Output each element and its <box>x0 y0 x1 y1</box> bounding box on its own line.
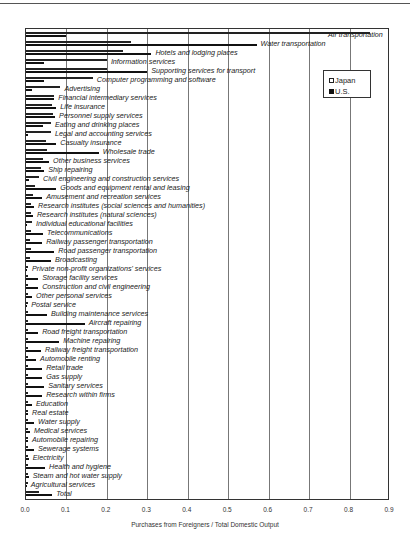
bar-row: Sanitary services <box>26 382 390 390</box>
category-label: Personnel supply services <box>59 112 143 120</box>
us-bar <box>26 215 33 218</box>
category-label: Education <box>36 400 68 408</box>
us-bar <box>26 350 41 353</box>
category-label: Research institutes (social sciences and… <box>38 202 205 210</box>
bar-row: Casualty insurance <box>26 139 390 147</box>
category-label: Medical services <box>34 427 87 435</box>
bar-row: Goods and equipment rental and leasing <box>26 184 390 192</box>
legend-item-us: U.S. <box>329 87 350 96</box>
us-bar <box>26 197 42 200</box>
bar-row: Building maintenance services <box>26 310 390 318</box>
us-bar <box>26 260 51 263</box>
category-label: Advertising <box>64 85 100 93</box>
category-label: Sewerage systems <box>38 445 99 453</box>
bar-row: Legal and accounting services <box>26 130 390 138</box>
us-bar <box>26 413 28 416</box>
us-bar <box>26 251 54 254</box>
bar-row: Information services <box>26 58 390 66</box>
category-label: Individual educational facilities <box>36 220 133 228</box>
us-bar <box>26 278 38 281</box>
category-label: Amusement and recreation services <box>46 193 161 201</box>
us-bar <box>26 359 36 362</box>
category-label: Research institutes (natural sciences) <box>37 211 157 219</box>
category-label: Goods and equipment rental and leasing <box>60 184 189 192</box>
category-label: Telecommunications <box>47 229 112 237</box>
x-axis-label: Purchases from Foreigners / Total Domest… <box>0 521 410 528</box>
category-label: Sanitary services <box>48 382 103 390</box>
bar-row: Real estate <box>26 409 390 417</box>
bar-row: Agricultural services <box>26 481 390 489</box>
bar-row: Water transportation <box>26 40 390 48</box>
category-label: Other personal services <box>36 292 112 300</box>
category-label: Road passenger transportation <box>58 247 157 255</box>
bar-row: Civil engineering and construction servi… <box>26 175 390 183</box>
category-label: Financial intermediary services <box>58 94 157 102</box>
us-bar <box>26 71 147 74</box>
category-label: Retail trade <box>46 364 83 372</box>
us-bar <box>26 224 27 227</box>
us-bar <box>26 233 43 236</box>
category-label: Automobile renting <box>40 355 100 363</box>
us-bar <box>26 386 44 389</box>
x-tick-label: 0.5 <box>223 506 232 513</box>
category-label: Machine repairing <box>63 337 120 345</box>
bar-row: Sewerage systems <box>26 445 390 453</box>
us-bar <box>26 62 44 65</box>
us-bar <box>26 395 42 398</box>
page-top-rule <box>0 3 410 4</box>
bar-row: Railway freight transportation <box>26 346 390 354</box>
bar-row: Broadcasting <box>26 256 390 264</box>
category-label: Broadcasting <box>55 256 97 264</box>
us-bar <box>26 449 34 452</box>
category-label: Eating and drinking places <box>55 121 139 129</box>
x-tick-label: 0.4 <box>182 506 191 513</box>
category-label: Legal and accounting services <box>55 130 152 138</box>
category-label: Supporting services for transport <box>151 67 255 75</box>
category-label: Total <box>56 490 71 498</box>
bar-row: Research institutes (natural sciences) <box>26 211 390 219</box>
category-label: Building maintenance services <box>51 310 148 318</box>
category-label: Information services <box>111 58 175 66</box>
category-label: Electricity <box>33 454 64 462</box>
us-bar <box>26 134 28 137</box>
japan-bar <box>26 32 370 35</box>
us-bar <box>26 431 30 434</box>
category-label: Postal service <box>31 301 76 309</box>
bar-row: Automobile renting <box>26 355 390 363</box>
us-bar <box>26 170 44 173</box>
category-label: Health and hygiene <box>49 463 111 471</box>
us-bar <box>26 314 47 317</box>
category-label: Water supply <box>38 418 80 426</box>
us-bar <box>26 422 34 425</box>
x-tick-label: 0.0 <box>20 506 29 513</box>
bar-row: Medical services <box>26 427 390 435</box>
bar-row: Wholesale trade <box>26 148 390 156</box>
us-bar <box>26 305 27 308</box>
us-swatch-icon <box>329 89 334 94</box>
legend: Japan U.S. <box>323 70 371 98</box>
category-label: Water transportation <box>261 40 326 48</box>
bar-row: Retail trade <box>26 364 390 372</box>
bar-row: Aircraft repairing <box>26 319 390 327</box>
us-bar <box>26 287 38 290</box>
category-label: Casualty insurance <box>60 139 121 147</box>
category-label: Other business services <box>53 157 130 165</box>
category-label: Computer programming and software <box>97 76 216 84</box>
category-label: Gas supply <box>46 373 82 381</box>
bar-row: Road passenger transportation <box>26 247 390 255</box>
us-bar <box>26 80 44 83</box>
us-bar <box>26 188 56 191</box>
bar-row: Private non-profit organizations' servic… <box>26 265 390 273</box>
category-label: Life insurance <box>60 103 105 111</box>
x-tick-label: 0.8 <box>344 506 353 513</box>
us-bar <box>26 179 29 182</box>
us-bar <box>26 404 32 407</box>
bar-row: Life insurance <box>26 103 390 111</box>
category-label: Private non-profit organizations' servic… <box>32 265 161 273</box>
us-bar <box>26 35 66 38</box>
x-tick-label: 0.1 <box>61 506 70 513</box>
category-label: Automobile repairing <box>32 436 98 444</box>
bar-row: Construction and civil engineering <box>26 283 390 291</box>
category-label: Steam and hot water supply <box>33 472 122 480</box>
us-bar <box>26 143 56 146</box>
